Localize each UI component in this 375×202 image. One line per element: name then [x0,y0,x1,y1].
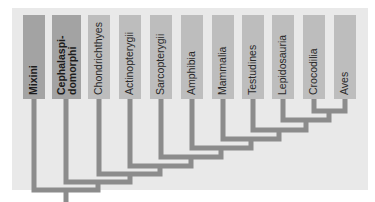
branch-crocodilia-aves [314,99,345,111]
branch-testudines [253,99,306,130]
cladogram-branches [0,0,375,202]
